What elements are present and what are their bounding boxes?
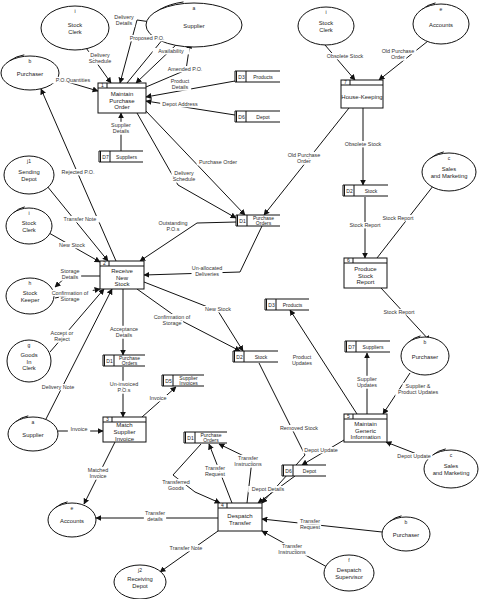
process-2-receive-new-stock[interactable]: 2ReceiveNewStock: [100, 260, 144, 289]
external-entity-stock-keeper[interactable]: hStockKeeper: [6, 278, 54, 314]
flow-label-text: Rejected P.O.: [62, 169, 95, 175]
data-store-code: D1: [106, 358, 113, 364]
process-name: Maintain: [354, 421, 377, 427]
flow-label-text: Accept or: [51, 330, 74, 336]
external-entity-stock-clerk-2[interactable]: iStockClerk: [298, 7, 354, 45]
entity-letter: e: [71, 505, 74, 511]
flow-label-text: Depot Update: [304, 447, 337, 453]
entity-name: Supplier: [183, 23, 204, 29]
process-name: Stock: [358, 273, 374, 279]
data-store-name: Invoices: [179, 380, 198, 386]
process-4-despatch-transfer[interactable]: 4DespatchTransfer: [218, 502, 262, 531]
flow-label-text: Amended P.O.: [168, 66, 203, 72]
data-store-d7-suppliers[interactable]: D7Suppliers: [345, 341, 390, 352]
flow-label: Depot Update: [303, 447, 340, 453]
process-6-produce-stock-report[interactable]: 6ProduceStockReport: [344, 257, 387, 288]
data-store-name: Stock: [255, 354, 268, 360]
external-entity-stock-clerk-1[interactable]: iStockClerk: [41, 6, 109, 50]
data-store-d6-depot[interactable]: D6Depot: [235, 111, 280, 122]
flow-label: Transfer Note: [60, 216, 100, 222]
data-store-d2-stock[interactable]: D2Stock: [343, 185, 388, 196]
flow-label-text: Details: [62, 274, 79, 280]
data-flow-arrow: [46, 289, 112, 419]
flow-label-text: Details: [116, 332, 133, 338]
entity-name: Accounts: [429, 22, 453, 28]
external-entity-supplier-2[interactable]: aSupplier: [8, 416, 58, 451]
flow-label-text: Transfer Note: [64, 216, 97, 222]
entity-letter: g: [28, 342, 31, 348]
data-store-code: D7: [102, 154, 109, 160]
process-name: Supplier: [113, 429, 135, 435]
data-store-name: Depot: [256, 114, 270, 120]
data-store-d1-purchase-orders[interactable]: D1PurchaseOrders: [184, 432, 227, 443]
flow-label-text: Transfer: [145, 510, 165, 516]
external-entity-despatch-supervisor[interactable]: fDespatchSupervisor: [324, 555, 374, 591]
flow-label-text: Stock Report: [349, 222, 381, 228]
process-number: 5: [347, 413, 350, 419]
entity-name: Clerk: [319, 27, 333, 33]
external-entity-goods-in-clerk[interactable]: gGoodsInClerk: [7, 340, 51, 382]
process-3-match-supplier-invoice[interactable]: 3MatchSupplierInvoice: [103, 416, 146, 442]
entity-name: Sales: [442, 166, 457, 172]
flow-label-text: Schedule: [89, 58, 111, 64]
entity-letter: b: [424, 339, 427, 345]
data-store-name: Orders: [256, 220, 272, 226]
flow-label-text: Availability: [158, 48, 184, 54]
flow-label: TransferInstructions: [274, 543, 311, 556]
data-store-d7-suppliers[interactable]: D7Suppliers: [99, 151, 143, 162]
data-store-d3-products[interactable]: D3Products: [265, 299, 309, 310]
entity-name: Stock: [68, 22, 83, 28]
entity-name: Stock: [319, 20, 334, 26]
process-name: Purchase: [109, 98, 135, 104]
entity-letter: a: [193, 5, 196, 11]
flow-label: Availability: [153, 48, 190, 54]
external-entity-receiving-depot[interactable]: j2ReceivingDepot: [114, 565, 166, 599]
flow-label-text: New Stock: [205, 306, 231, 312]
flow-label-text: Matched: [88, 467, 109, 473]
flow-label-text: New Stock: [59, 242, 85, 248]
data-store-d5-supplier-invoices[interactable]: D5SupplierInvoices: [162, 375, 204, 386]
data-store-d6-depot[interactable]: D6Depot: [282, 465, 326, 476]
flow-label-text: Order: [391, 54, 405, 60]
process-7-house-keeping[interactable]: 7House-Keeping: [341, 79, 383, 108]
data-store-d3-products[interactable]: D3Products: [235, 71, 280, 82]
flow-label-text: Confirmation of: [52, 290, 89, 296]
process-number: 2: [103, 260, 106, 266]
flow-label: Confirmation ofStorage: [149, 314, 195, 327]
external-entity-purchaser-1[interactable]: bPurchaser: [1, 55, 59, 90]
flow-label-text: Storage: [61, 296, 80, 302]
external-entity-sales-marketing-1[interactable]: cSalesand Marketing: [422, 152, 476, 191]
entity-name: Keeper: [21, 297, 40, 303]
flow-label: TransferRequest: [202, 465, 227, 478]
external-entity-accounts-1[interactable]: eAccounts: [413, 3, 469, 44]
process-name: Report: [356, 279, 374, 285]
flow-label: ProductUpdates: [291, 354, 313, 367]
entity-name: Stock: [22, 220, 37, 226]
external-entity-accounts-2[interactable]: eAccounts: [48, 502, 96, 537]
data-store-d1-purchase-orders[interactable]: D1PurchaseOrders: [103, 355, 145, 366]
process-name: Despatch: [227, 513, 252, 519]
external-entity-purchaser-3[interactable]: bPurchaser: [382, 516, 430, 551]
process-name: Match: [116, 422, 132, 428]
external-entity-stock-clerk-3[interactable]: iStockClerk: [6, 207, 52, 244]
process-5-maintain-generic-information[interactable]: 5MaintainGenericInformation: [344, 413, 387, 442]
external-entity-sending-depot[interactable]: j1SendingDepot: [4, 156, 54, 194]
process-name: Produce: [354, 266, 377, 272]
data-store-code: D2: [236, 354, 243, 360]
flow-label-text: Old Purchase: [382, 48, 415, 54]
flow-label-text: Transferred: [162, 479, 190, 485]
data-store-code: D3: [268, 302, 275, 308]
process-name: Information: [350, 434, 380, 440]
flow-label-text: Transfer: [238, 455, 258, 461]
flow-label: StorageDetails: [59, 268, 81, 281]
data-store-name: Orders: [203, 437, 219, 443]
flow-label-text: Transfer: [282, 543, 302, 549]
flow-label-text: Product: [171, 78, 190, 84]
external-entity-purchaser-2[interactable]: bPurchaser: [401, 336, 449, 375]
data-store-d1-purchase-orders[interactable]: D1PurchaseOrders: [236, 215, 280, 226]
flow-label-text: Goods: [168, 485, 184, 491]
process-1-maintain-purchase-order[interactable]: 1MaintainPurchaseOrder: [98, 82, 146, 113]
data-store-d2-stock[interactable]: D2Stock: [233, 351, 278, 362]
flow-label: DeliverySchedule: [171, 170, 196, 183]
flow-label-text: Order: [297, 158, 311, 164]
